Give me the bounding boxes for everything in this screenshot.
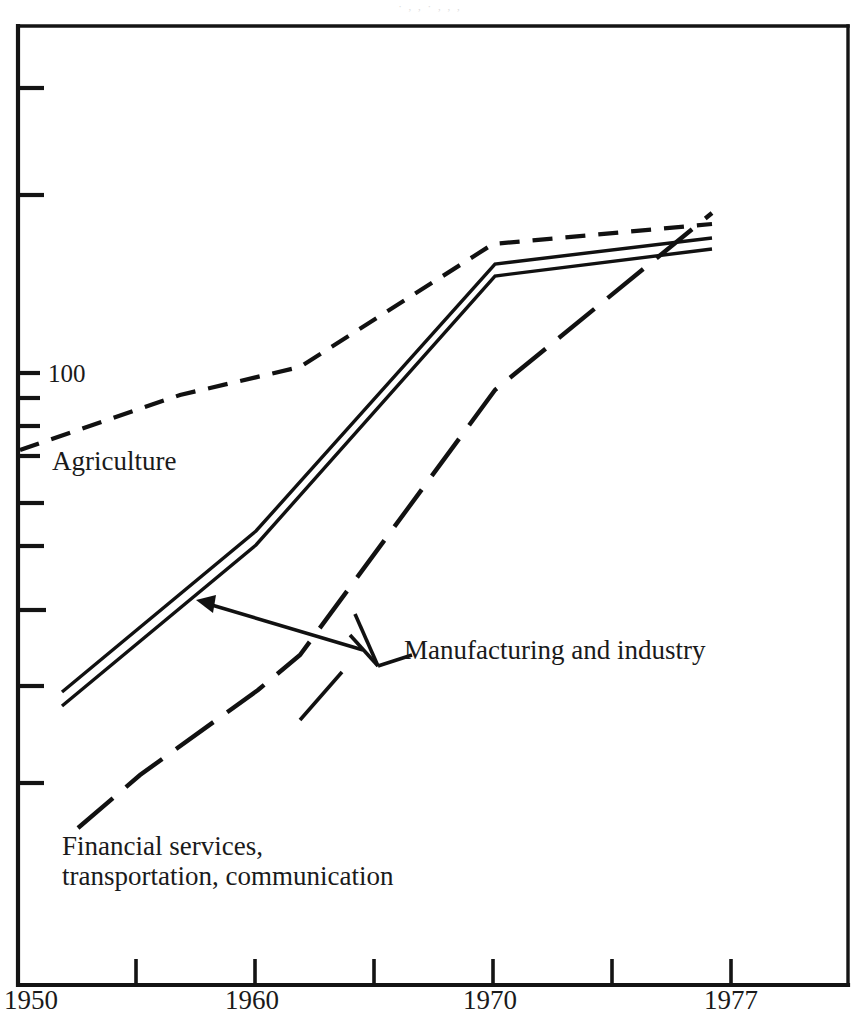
series-label-financial-line1: Financial services, — [62, 831, 263, 861]
callout-cross-stroke — [355, 614, 378, 666]
chart-figure: · , , · , , , 100 — [0, 0, 860, 1015]
series-label-manufacturing: Manufacturing and industry — [404, 635, 706, 665]
x-tick-label-1950: 1950 — [4, 985, 58, 1015]
callout-arrow-shaft — [205, 603, 363, 650]
series-label-financial-line2: transportation, communication — [62, 861, 394, 891]
y-axis-ticks — [18, 88, 46, 783]
series-line-agriculture — [20, 224, 712, 450]
callout-tick-upper — [350, 635, 378, 666]
x-tick-label-1970: 1970 — [463, 985, 517, 1015]
x-axis-ticks — [18, 959, 731, 985]
callout-arrow-head — [196, 595, 216, 613]
manufacturing-callout-arrow — [196, 595, 412, 720]
callout-tick-lower — [300, 672, 342, 720]
series-label-agriculture: Agriculture — [52, 446, 176, 476]
x-tick-label-1960: 1960 — [225, 985, 279, 1015]
x-tick-label-1977: 1977 — [704, 985, 758, 1015]
y-tick-label-100: 100 — [48, 360, 86, 387]
line-chart-plot: 100 1950 1960 1970 1977 — [0, 0, 860, 1015]
